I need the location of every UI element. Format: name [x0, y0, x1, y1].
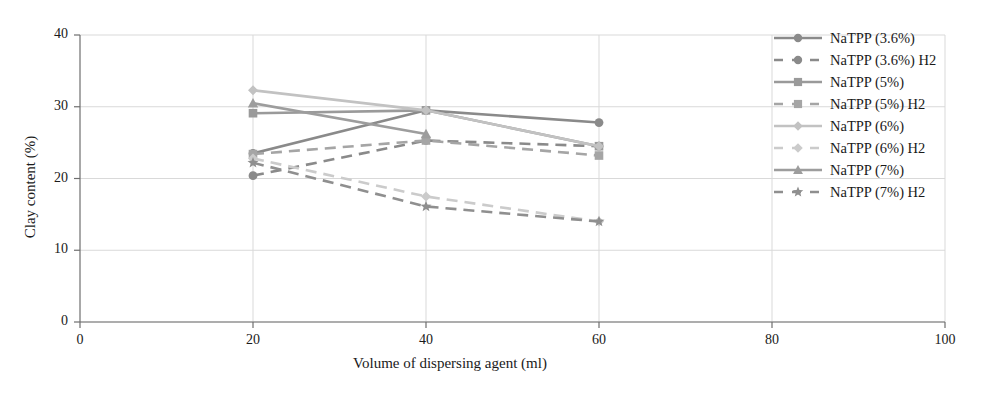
marker-square — [249, 109, 258, 118]
x-axis-title-wrapper: Volume of dispersing agent (ml) — [200, 354, 700, 372]
y-axis-title-wrapper: Clay content (%) — [21, 87, 39, 287]
x-axis-title: Volume of dispersing agent (ml) — [353, 355, 547, 371]
x-tick-label: 100 — [925, 332, 965, 348]
chart-legend: NaTPP (3.6%)NaTPP (3.6%) H2NaTPP (5%)NaT… — [772, 27, 990, 203]
x-tick-label: 80 — [752, 332, 792, 348]
legend-item[interactable]: NaTPP (3.6%) H2 — [772, 49, 990, 71]
marker-circle — [794, 34, 802, 42]
legend-item[interactable]: NaTPP (7%) H2 — [772, 181, 990, 203]
legend-key-icon — [772, 29, 824, 47]
marker-star — [793, 186, 803, 196]
legend-key-icon — [772, 183, 824, 201]
marker-square — [794, 100, 802, 108]
legend-label: NaTPP (7%) — [824, 162, 904, 179]
legend-key-icon — [772, 95, 824, 113]
y-tick-label: 40 — [28, 26, 68, 42]
legend-key-icon — [772, 51, 824, 69]
marker-diamond — [421, 191, 431, 201]
legend-key-swatch — [772, 73, 824, 91]
legend-item[interactable]: NaTPP (6%) — [772, 115, 990, 137]
x-tick-label: 60 — [579, 332, 619, 348]
x-tick-label: 0 — [60, 332, 100, 348]
marker-diamond — [793, 143, 803, 153]
legend-item[interactable]: NaTPP (5%) H2 — [772, 93, 990, 115]
legend-key-icon — [772, 117, 824, 135]
legend-key-swatch — [772, 29, 824, 47]
legend-item[interactable]: NaTPP (6%) H2 — [772, 137, 990, 159]
marker-diamond — [793, 121, 803, 131]
legend-key-swatch — [772, 139, 824, 157]
x-tick-label: 40 — [406, 332, 446, 348]
marker-circle — [794, 56, 802, 64]
legend-key-swatch — [772, 95, 824, 113]
legend-label: NaTPP (6%) — [824, 118, 904, 135]
legend-item[interactable]: NaTPP (3.6%) — [772, 27, 990, 49]
legend-label: NaTPP (6%) H2 — [824, 140, 925, 157]
marker-circle — [249, 171, 258, 180]
legend-item[interactable]: NaTPP (5%) — [772, 71, 990, 93]
marker-square — [794, 78, 802, 86]
legend-label: NaTPP (7%) H2 — [824, 184, 925, 201]
legend-label: NaTPP (5%) — [824, 74, 904, 91]
marker-diamond — [248, 85, 258, 95]
y-axis-title: Clay content (%) — [22, 136, 38, 238]
x-tick-label: 20 — [233, 332, 273, 348]
legend-label: NaTPP (3.6%) — [824, 30, 915, 47]
legend-key-swatch — [772, 183, 824, 201]
clay-content-line-chart: 010203040 020406080100 Clay content (%) … — [0, 0, 1003, 401]
legend-key-icon — [772, 139, 824, 157]
legend-key-icon — [772, 73, 824, 91]
marker-square — [595, 151, 604, 160]
legend-key-swatch — [772, 117, 824, 135]
legend-key-icon — [772, 161, 824, 179]
y-tick-label: 0 — [28, 313, 68, 329]
legend-key-swatch — [772, 51, 824, 69]
legend-label: NaTPP (3.6%) H2 — [824, 52, 936, 69]
legend-key-swatch — [772, 161, 824, 179]
marker-circle — [595, 118, 604, 127]
legend-label: NaTPP (5%) H2 — [824, 96, 925, 113]
legend-item[interactable]: NaTPP (7%) — [772, 159, 990, 181]
